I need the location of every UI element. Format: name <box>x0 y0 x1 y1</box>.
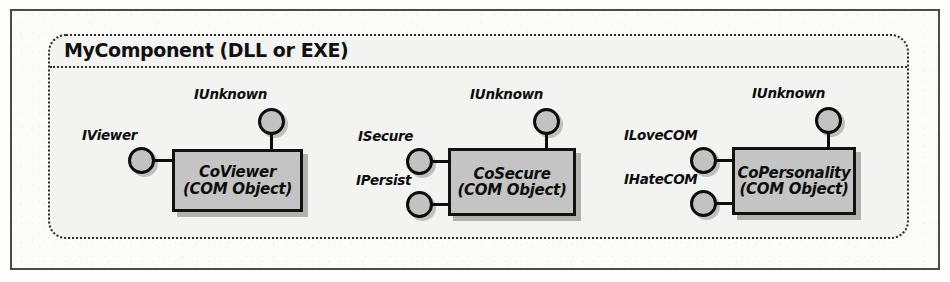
interface-label: IUnknown <box>752 85 825 101</box>
interface-lollipop-iunknown[interactable] <box>815 107 842 134</box>
interface-label: ILoveCOM <box>624 127 697 143</box>
interface-stem <box>715 202 735 205</box>
com-component-diagram: MyComponent (DLL or EXE) CoViewer(COM Ob… <box>0 0 950 282</box>
interface-label: IHateCOM <box>624 171 697 187</box>
com-object-box[interactable]: CoPersonality(COM Object) <box>732 147 856 215</box>
interface-stem <box>715 159 735 162</box>
com-object-subtitle: (COM Object) <box>740 181 849 197</box>
com-object-group: CoPersonality(COM Object)IUnknownILoveCO… <box>0 0 950 282</box>
interface-lollipop-ilovecom[interactable] <box>690 147 717 174</box>
interface-stem <box>827 132 830 150</box>
interface-lollipop-ihatecom[interactable] <box>690 190 717 217</box>
com-object-name: CoPersonality <box>738 165 851 181</box>
